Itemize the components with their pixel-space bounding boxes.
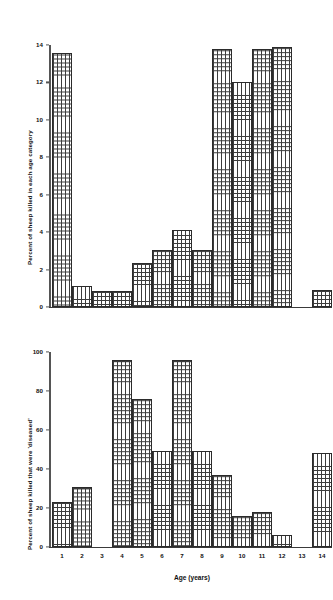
y-tick-mark	[46, 507, 49, 508]
y-tick-mark	[46, 351, 49, 352]
bar	[172, 230, 192, 307]
bar	[212, 475, 232, 547]
bar	[312, 453, 332, 547]
y-tick-mark	[46, 194, 49, 195]
bar	[72, 286, 92, 307]
x-tick-label: 12	[279, 553, 286, 559]
bar	[232, 82, 252, 307]
y-tick-mark	[46, 546, 49, 547]
y-tick-label: 0	[21, 304, 43, 310]
bar	[132, 263, 152, 307]
y-tick-mark	[46, 44, 49, 45]
bar	[212, 49, 232, 307]
bar	[72, 487, 92, 547]
bar	[192, 250, 212, 307]
x-tick-label: 9	[220, 553, 223, 559]
figure-bottom: Percent of sheep killed that were 'disea…	[0, 330, 333, 600]
x-tick-label: 1	[60, 553, 63, 559]
y-tick-label: 60	[21, 427, 43, 433]
x-tick-label: 10	[239, 553, 246, 559]
x-axis-label-bottom: Age (years)	[52, 574, 332, 581]
x-tick-label: 2	[80, 553, 83, 559]
x-tick-label: 6	[160, 553, 163, 559]
x-tick-label: 8	[200, 553, 203, 559]
bar	[152, 250, 172, 307]
plot-area-bottom: 0204060801001234567891011121314	[52, 352, 332, 547]
x-tick-label: 3	[100, 553, 103, 559]
y-tick-mark	[46, 306, 49, 307]
y-tick-label: 8	[21, 154, 43, 160]
y-tick-label: 12	[21, 79, 43, 85]
bar	[132, 399, 152, 547]
y-tick-label: 10	[21, 117, 43, 123]
bar	[172, 360, 192, 547]
plot-area-top: 02468101214	[52, 45, 332, 307]
x-tick-label: 4	[120, 553, 123, 559]
y-axis-line	[49, 45, 51, 307]
y-axis-line	[49, 352, 51, 547]
x-axis-line	[49, 547, 332, 548]
y-tick-mark	[46, 232, 49, 233]
bar	[312, 290, 332, 307]
bar	[192, 451, 212, 547]
y-tick-label: 100	[21, 349, 43, 355]
bar	[92, 291, 112, 307]
x-tick-label: 5	[140, 553, 143, 559]
y-tick-label: 40	[21, 466, 43, 472]
x-tick-label: 7	[180, 553, 183, 559]
y-tick-mark	[46, 82, 49, 83]
y-tick-mark	[46, 390, 49, 391]
bar	[252, 512, 272, 547]
x-axis-line	[49, 307, 332, 308]
y-tick-mark	[46, 157, 49, 158]
x-tick-label: 13	[299, 553, 306, 559]
bar	[52, 502, 72, 547]
y-tick-label: 2	[21, 266, 43, 272]
bar	[112, 360, 132, 547]
bar	[272, 535, 292, 547]
bar	[272, 47, 292, 307]
y-tick-mark	[46, 468, 49, 469]
y-tick-mark	[46, 119, 49, 120]
y-axis-label-bottom: Percent of sheep killed that were 'disea…	[26, 418, 33, 550]
y-tick-label: 14	[21, 42, 43, 48]
x-tick-label: 11	[259, 553, 266, 559]
y-tick-label: 0	[21, 544, 43, 550]
x-tick-label: 14	[319, 553, 326, 559]
bar	[152, 451, 172, 547]
figure-top: Percent of sheep killed in each age cate…	[0, 0, 333, 330]
bar	[112, 291, 132, 307]
bar	[252, 49, 272, 307]
bar	[52, 53, 72, 308]
chart-page: Percent of sheep killed in each age cate…	[0, 0, 333, 600]
y-tick-mark	[46, 269, 49, 270]
y-tick-label: 20	[21, 505, 43, 511]
y-tick-label: 4	[21, 229, 43, 235]
y-tick-label: 80	[21, 388, 43, 394]
y-tick-mark	[46, 429, 49, 430]
bar	[232, 516, 252, 547]
y-tick-label: 6	[21, 192, 43, 198]
